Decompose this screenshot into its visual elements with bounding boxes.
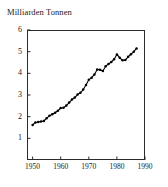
y-tick-label: 4 bbox=[8, 69, 22, 77]
x-tick-label: 1960 bbox=[48, 163, 74, 171]
y-tick-label: 2 bbox=[8, 113, 22, 121]
x-tick-label: 1950 bbox=[20, 163, 46, 171]
y-tick-label: 5 bbox=[8, 48, 22, 56]
chart-title: Milliarden Tonnen bbox=[7, 7, 72, 17]
plot-area bbox=[27, 30, 145, 160]
y-tick-label: 6 bbox=[8, 26, 22, 34]
x-tick-label: 1990 bbox=[132, 163, 158, 171]
chart-figure: Milliarden Tonnen 123456 195019601970198… bbox=[0, 0, 168, 187]
x-tick-label: 1980 bbox=[104, 163, 130, 171]
x-tick-label: 1970 bbox=[76, 163, 102, 171]
y-tick-label: 3 bbox=[8, 91, 22, 99]
y-tick-label: 1 bbox=[8, 134, 22, 142]
